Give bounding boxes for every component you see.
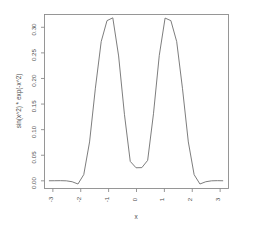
- x-axis-title: x: [134, 213, 138, 220]
- line-chart: -3-2-10123 0.000.050.100.150.200.250.30 …: [0, 0, 254, 232]
- y-tick-label: 0.10: [31, 125, 38, 138]
- y-tick-label: 0.15: [31, 100, 38, 113]
- x-axis-tick-labels: -3-2-10123: [47, 196, 221, 202]
- y-tick-label: 0.05: [31, 151, 38, 164]
- x-tick-label: 1: [158, 197, 165, 201]
- data-series-line: [49, 18, 223, 184]
- y-axis-title: sin(x^2) * exp(-x^2): [15, 74, 23, 129]
- y-tick-label: 0.00: [31, 176, 38, 189]
- y-tick-label: 0.30: [31, 23, 38, 36]
- x-axis-ticks: [53, 189, 220, 193]
- x-tick-label: -1: [103, 196, 110, 202]
- chart-figure: -3-2-10123 0.000.050.100.150.200.250.30 …: [0, 0, 254, 232]
- x-tick-label: -3: [47, 196, 54, 202]
- x-tick-label: -2: [75, 196, 82, 202]
- y-tick-label: 0.25: [31, 49, 38, 62]
- y-axis-tick-labels: 0.000.050.100.150.200.250.30: [31, 23, 38, 189]
- y-tick-label: 0.20: [31, 74, 38, 87]
- y-axis-ticks: [41, 27, 45, 181]
- plot-frame: [45, 15, 229, 189]
- x-tick-label: 0: [131, 197, 138, 201]
- x-tick-label: 2: [186, 197, 193, 201]
- x-tick-label: 3: [214, 197, 221, 201]
